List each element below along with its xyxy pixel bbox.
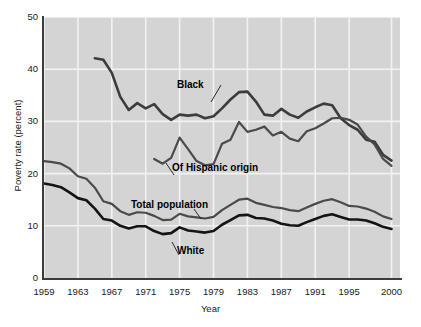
y-tick-label: 0 xyxy=(8,272,38,283)
x-axis-spine xyxy=(42,278,402,280)
chart-canvas xyxy=(44,17,400,278)
x-tick-label: 1995 xyxy=(329,286,369,297)
series-label-total-population: Total population xyxy=(131,199,208,210)
series-line-of-hispanic-origin xyxy=(154,118,391,166)
series-lines xyxy=(44,58,392,234)
series-label-black: Black xyxy=(177,79,204,90)
y-axis-title: Poverty rate (percent) xyxy=(12,71,23,221)
x-tick-label: 2000 xyxy=(372,286,412,297)
plot-area xyxy=(44,17,400,278)
x-axis-title: Year xyxy=(0,303,421,314)
y-axis-spine xyxy=(42,16,44,279)
series-label-hispanic: Of Hispanic origin xyxy=(172,162,258,173)
series-label-white: White xyxy=(177,245,204,256)
y-tick-label: 10 xyxy=(8,220,38,231)
series-line-black xyxy=(95,58,392,160)
y-tick-label: 50 xyxy=(8,11,38,22)
poverty-rate-line-chart: 01020304050 1959196319671971197519791983… xyxy=(0,0,421,327)
gridlines xyxy=(44,17,400,278)
